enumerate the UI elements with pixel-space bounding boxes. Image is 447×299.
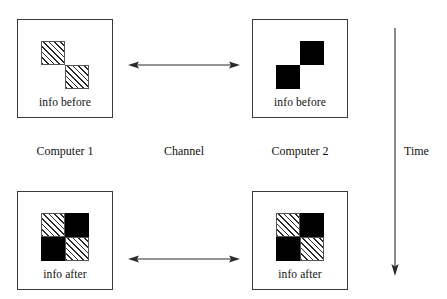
box-caption-bottom-right: info after: [253, 268, 347, 281]
label-computer-1: Computer 1: [17, 144, 113, 158]
cell-top-right: [300, 41, 324, 65]
channel-arrow-top-icon: [128, 58, 240, 72]
cell-top-left: [41, 41, 65, 65]
label-computer-2: Computer 2: [252, 144, 348, 158]
cell-top-left: [41, 213, 65, 237]
computer-1-after-box: info after: [17, 191, 113, 290]
box-caption-top-right: info before: [253, 96, 347, 109]
cell-bottom-right: [300, 65, 324, 89]
computer-2-after-box: info after: [252, 191, 348, 290]
cell-top-left: [276, 41, 300, 65]
label-time: Time: [404, 144, 444, 158]
information-transfer-diagram: info before info before info after info …: [0, 0, 447, 299]
cell-bottom-left: [41, 237, 65, 261]
cell-grid-bottom-left: [41, 213, 89, 261]
label-channel: Channel: [128, 144, 240, 158]
cell-top-right: [300, 213, 324, 237]
time-arrow-down-icon: [386, 28, 404, 276]
box-caption-top-left: info before: [18, 96, 112, 109]
cell-bottom-right: [300, 237, 324, 261]
computer-1-before-box: info before: [17, 19, 113, 118]
cell-top-right: [65, 41, 89, 65]
cell-top-left: [276, 213, 300, 237]
cell-grid-bottom-right: [276, 213, 324, 261]
box-caption-bottom-left: info after: [18, 268, 112, 281]
cell-bottom-left: [41, 65, 65, 89]
cell-bottom-left: [276, 65, 300, 89]
cell-bottom-left: [276, 237, 300, 261]
cell-grid-top-left: [41, 41, 89, 89]
cell-bottom-right: [65, 237, 89, 261]
cell-bottom-right: [65, 65, 89, 89]
cell-top-right: [65, 213, 89, 237]
cell-grid-top-right: [276, 41, 324, 89]
channel-arrow-bottom-icon: [128, 252, 240, 266]
computer-2-before-box: info before: [252, 19, 348, 118]
